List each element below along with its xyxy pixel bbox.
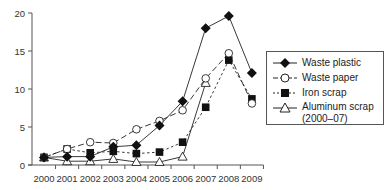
x-tick-label: 2002 xyxy=(80,173,101,184)
data-point xyxy=(248,100,256,108)
legend-item-waste-plastic: Waste plastic xyxy=(271,56,361,70)
data-point xyxy=(62,152,72,162)
data-point xyxy=(224,11,234,21)
x-tick-label: 2009 xyxy=(241,173,262,184)
data-point xyxy=(202,75,210,83)
data-point xyxy=(201,23,211,33)
filled-square-icon xyxy=(271,86,299,100)
legend-item-iron-scrap: Iron scrap xyxy=(271,86,346,100)
x-tick-label: 2007 xyxy=(195,173,216,184)
data-point xyxy=(202,103,210,111)
data-point xyxy=(156,148,164,156)
data-point xyxy=(178,152,187,160)
legend-item-waste-paper: Waste paper xyxy=(271,71,358,85)
filled-diamond-icon xyxy=(271,56,299,70)
legend-item-aluminum-scrap: Aluminum scrap(2000–07) xyxy=(271,101,374,115)
data-point xyxy=(179,138,187,146)
x-tick-label: 2000 xyxy=(33,173,54,184)
legend-label: Waste paper xyxy=(302,72,358,84)
legend-label: Aluminum scrap(2000–07) xyxy=(302,101,374,125)
series-group xyxy=(39,11,257,165)
y-tick-label: 10 xyxy=(14,84,25,95)
x-tick-label: 2005 xyxy=(149,173,170,184)
y-tick-label: 15 xyxy=(14,46,25,57)
x-tick-label: 2004 xyxy=(126,173,147,184)
data-point xyxy=(179,106,187,114)
data-point xyxy=(225,49,233,57)
y-tick-label: 5 xyxy=(20,122,25,133)
y-tick-label: 20 xyxy=(14,8,25,19)
x-tick-label: 2003 xyxy=(103,173,124,184)
open-triangle-icon xyxy=(271,101,299,115)
data-point xyxy=(86,138,94,146)
series-line xyxy=(44,53,252,157)
legend-label: Iron scrap xyxy=(302,87,346,99)
series-line xyxy=(44,16,252,157)
data-point xyxy=(247,68,257,78)
legend-label: Waste plastic xyxy=(302,57,361,69)
data-point xyxy=(109,154,118,162)
open-circle-icon xyxy=(271,71,299,85)
x-tick-label: 2001 xyxy=(57,173,78,184)
x-tick-label: 2006 xyxy=(172,173,193,184)
data-point xyxy=(133,125,141,133)
series-line xyxy=(44,60,252,157)
x-tick-label: 2008 xyxy=(218,173,239,184)
data-point xyxy=(133,150,141,158)
y-tick-label: 0 xyxy=(20,160,25,171)
chart-legend: Waste plastic Waste paper Iron scrap Alu… xyxy=(266,51,384,125)
